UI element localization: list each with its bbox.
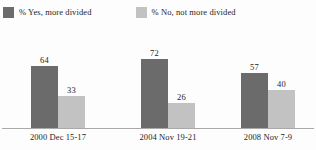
bar-2004-yes[interactable] — [141, 59, 168, 128]
bar-chart: % Yes, more divided % No, not more divid… — [0, 0, 316, 150]
bar-2000-yes[interactable] — [31, 66, 58, 128]
legend-label-yes: % Yes, more divided — [19, 7, 92, 18]
bar-group-2004: 72 26 — [116, 24, 220, 128]
bar-wrap-2004-yes: 72 — [141, 24, 168, 128]
bar-wrap-2000-yes: 64 — [31, 24, 58, 128]
bar-2008-yes[interactable] — [241, 73, 268, 128]
bar-group-2000: 64 33 — [0, 24, 116, 128]
bar-wrap-2008-no: 40 — [268, 24, 295, 128]
x-tick-label-2004: 2004 Nov 19-21 — [116, 132, 220, 148]
bar-value-2008-no: 40 — [277, 79, 286, 89]
bar-value-2004-yes: 72 — [150, 48, 159, 58]
x-tick-label-2000: 2000 Dec 15-17 — [0, 132, 116, 148]
bar-group-2008: 57 40 — [220, 24, 316, 128]
plot-area: 64 33 72 26 57 — [0, 24, 316, 129]
legend-swatch-no-icon — [136, 7, 147, 18]
bar-wrap-2004-no: 26 — [168, 24, 195, 128]
bar-value-2008-yes: 57 — [250, 62, 259, 72]
bar-groups: 64 33 72 26 57 — [0, 24, 316, 128]
legend-swatch-yes-icon — [3, 7, 14, 18]
bar-wrap-2000-no: 33 — [58, 24, 85, 128]
legend-item-yes: % Yes, more divided — [3, 5, 92, 19]
bar-value-2000-yes: 64 — [40, 55, 49, 65]
chart-legend: % Yes, more divided % No, not more divid… — [3, 5, 313, 19]
bar-value-2004-no: 26 — [177, 92, 186, 102]
x-axis-line — [2, 128, 314, 129]
bar-2004-no[interactable] — [168, 103, 195, 128]
legend-item-no: % No, not more divided — [136, 5, 236, 19]
x-axis-tick-labels: 2000 Dec 15-17 2004 Nov 19-21 2008 Nov 7… — [0, 132, 316, 148]
x-tick-label-2008: 2008 Nov 7-9 — [220, 132, 316, 148]
bar-value-2000-no: 33 — [67, 85, 76, 95]
bar-2000-no[interactable] — [58, 96, 85, 128]
legend-label-no: % No, not more divided — [152, 7, 236, 18]
bar-2008-no[interactable] — [268, 90, 295, 128]
bar-wrap-2008-yes: 57 — [241, 24, 268, 128]
